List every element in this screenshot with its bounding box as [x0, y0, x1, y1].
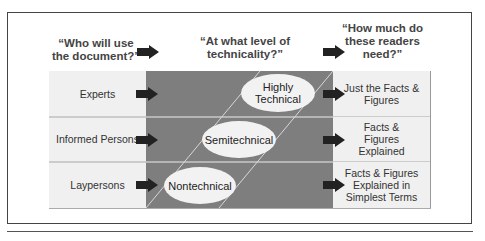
reader-informed: Informed Persons — [49, 117, 146, 161]
bottom-rule — [7, 231, 473, 232]
row-arrow-right-1-icon — [323, 87, 345, 101]
level-semitechnical: Semitechnical — [202, 121, 276, 158]
need-facts-figures: Just the Facts & Figures — [333, 71, 430, 116]
row-arrow-right-3-icon — [323, 178, 345, 192]
need-simplest: Facts & Figures Explained in Simplest Te… — [333, 162, 430, 208]
header-who: “Who will use the document?” — [50, 37, 142, 63]
header-arrow-1-icon — [137, 45, 159, 59]
level-nontechnical: Nontechnical — [164, 167, 236, 204]
need-explained: Facts & Figures Explained — [333, 117, 430, 161]
table-bottom-border — [49, 208, 431, 209]
row-arrow-left-2-icon — [136, 133, 158, 147]
row-arrow-left-1-icon — [136, 87, 158, 101]
header-arrow-2-icon — [323, 45, 345, 59]
reader-laypersons: Laypersons — [49, 162, 146, 208]
reader-experts: Experts — [49, 71, 146, 116]
row-arrow-left-3-icon — [136, 178, 158, 192]
row-arrow-right-2-icon — [323, 133, 345, 147]
header-need: “How much do these readers need?” — [335, 22, 430, 61]
header-level: “At what level of technicality?” — [190, 35, 300, 61]
right-col-border — [430, 71, 431, 208]
level-highly-technical: Highly Technical — [241, 74, 315, 112]
